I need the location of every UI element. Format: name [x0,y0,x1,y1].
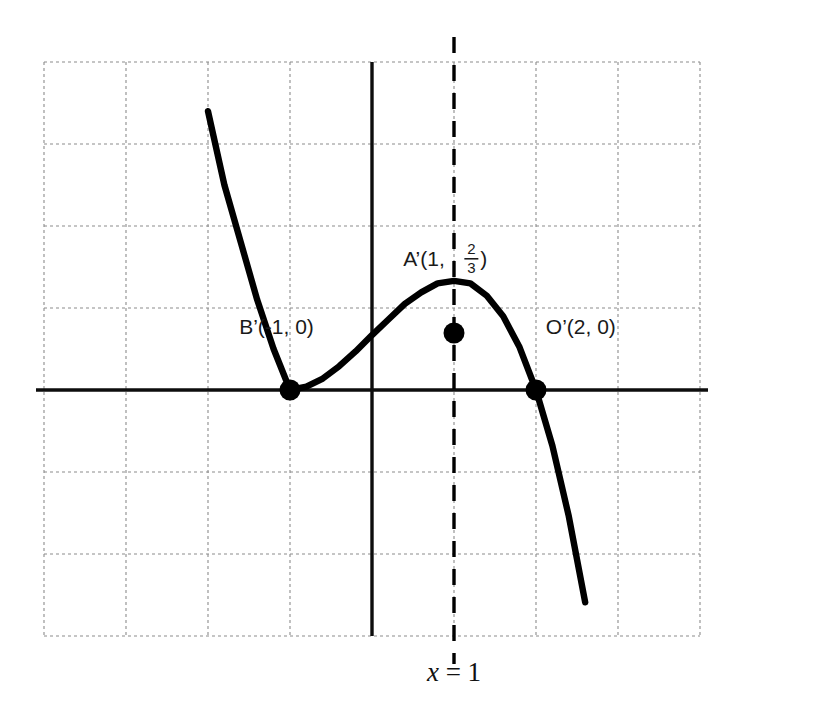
axis-annotations: x = 1 [426,657,481,687]
label-A-prime-fraction-denominator: 3 [467,259,475,276]
annotation-x-equals-1-label: x = 1 [426,657,481,687]
label-B-prime: B’(-1, 0) [239,315,314,338]
label-A-prime-fraction-numerator: 2 [467,240,475,257]
plot-background [0,0,817,713]
graph-figure: B’(-1, 0)A’(1, 23)O’(2, 0) x = 1 [0,0,817,713]
label-A-prime-suffix: ) [480,247,487,270]
annotation-x-equals-1-label-text: x = 1 [426,657,481,687]
label-A-prime-prefix: A’(1, [403,247,445,270]
marker-B-prime [280,380,301,401]
label-O-prime: O’(2, 0) [546,315,616,338]
marker-A-prime [444,323,465,344]
marker-O-prime [526,380,547,401]
cubic-function-plot: B’(-1, 0)A’(1, 23)O’(2, 0) x = 1 [0,0,817,713]
